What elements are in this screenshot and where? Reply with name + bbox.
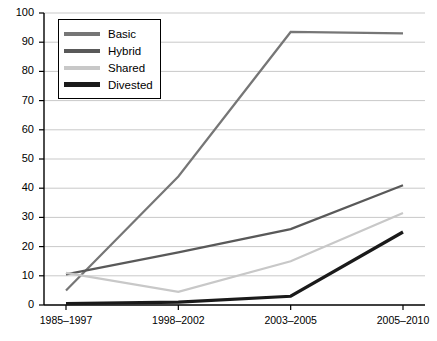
line-chart: 0102030405060708090100 1985–19971998–200… (0, 0, 437, 341)
series-line-divested (66, 232, 403, 304)
legend-swatch-icon (64, 32, 100, 36)
y-axis-tick-label: 0 (0, 299, 34, 310)
chart-legend: BasicHybridSharedDivested (58, 19, 161, 99)
x-axis-tick-label: 2003–2005 (236, 315, 346, 326)
x-axis-tick-label: 1985–1997 (11, 315, 121, 326)
y-axis-tick-label: 70 (0, 95, 34, 106)
legend-label: Basic (108, 28, 136, 40)
x-axis-tick-label: 2005–2010 (348, 315, 437, 326)
legend-label: Shared (108, 62, 145, 74)
series-line-shared (66, 213, 403, 292)
legend-item-divested: Divested (64, 76, 153, 93)
y-axis-tick-label: 40 (0, 182, 34, 193)
legend-item-hybrid: Hybrid (64, 42, 153, 59)
y-axis-tick-label: 10 (0, 270, 34, 281)
y-axis-tick-label: 60 (0, 124, 34, 135)
legend-swatch-icon (64, 82, 100, 87)
y-axis-tick-label: 20 (0, 241, 34, 252)
legend-label: Hybrid (108, 45, 141, 57)
y-axis-tick-label: 50 (0, 153, 34, 164)
y-axis-tick-label: 90 (0, 36, 34, 47)
y-axis-tick-label: 30 (0, 211, 34, 222)
legend-swatch-icon (64, 66, 100, 70)
y-axis-tick-label: 80 (0, 65, 34, 76)
y-axis-tick-label: 100 (0, 7, 34, 18)
legend-swatch-icon (64, 49, 100, 53)
x-axis-tick-label: 1998–2002 (123, 315, 233, 326)
legend-label: Divested (108, 79, 153, 91)
legend-item-basic: Basic (64, 25, 153, 42)
legend-item-shared: Shared (64, 59, 153, 76)
